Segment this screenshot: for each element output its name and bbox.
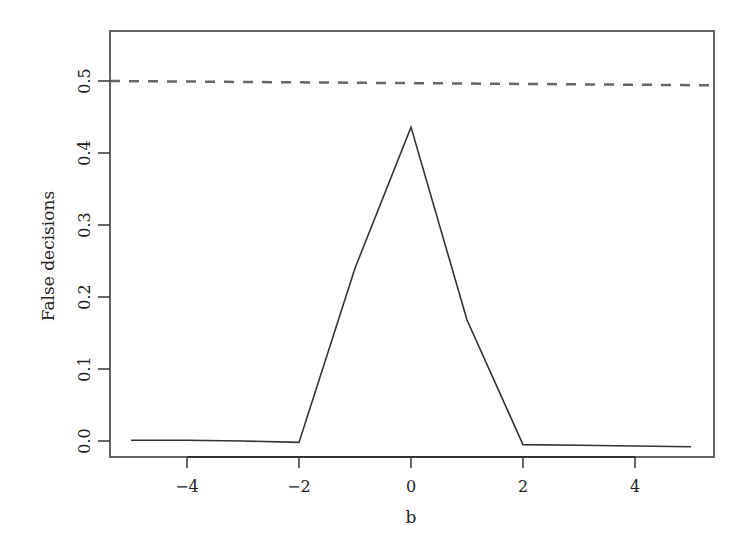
plot-frame (110, 31, 714, 457)
x-tick-label: 2 (518, 477, 528, 496)
chart: 0.00.10.20.30.40.5 −4−2024 b False decis… (0, 0, 752, 552)
x-tick-label: 0 (406, 477, 416, 496)
x-axis: −4−2024 (175, 457, 640, 496)
y-axis: 0.00.10.20.30.40.5 (75, 68, 110, 453)
x-axis-title: b (406, 507, 417, 527)
x-tick-label: −2 (287, 477, 311, 496)
y-tick-label: 0.5 (75, 68, 94, 93)
y-axis-title: False decisions (38, 191, 58, 321)
reference-dashed-line (110, 81, 714, 85)
y-tick-label: 0.1 (75, 356, 94, 381)
y-tick-label: 0.0 (75, 428, 94, 453)
series-layer (110, 81, 714, 447)
y-tick-label: 0.3 (75, 212, 94, 237)
x-tick-label: −4 (175, 477, 199, 496)
x-tick-label: 4 (630, 477, 640, 496)
false-decisions-line (131, 127, 691, 447)
y-tick-label: 0.4 (75, 140, 94, 165)
y-tick-label: 0.2 (75, 284, 94, 309)
